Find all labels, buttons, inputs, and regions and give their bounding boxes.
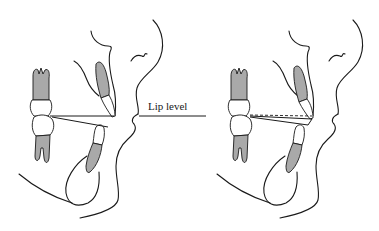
right-forehead-nose-contour [336, 20, 362, 114]
right-lower-incisor-root [286, 143, 302, 173]
left-upper-incisor-crown [101, 95, 115, 117]
left-panel [19, 20, 163, 218]
left-upper-incisor-root [96, 62, 109, 98]
lip-level-diagram: Lip level [0, 0, 379, 231]
left-upper-molar-root [33, 68, 49, 100]
right-incisor-connector [308, 119, 312, 125]
right-lower-molar-crown [230, 115, 251, 136]
left-lower-molar-root [35, 135, 50, 163]
left-nostril-curve [131, 54, 147, 61]
left-lower-incisor-root [86, 143, 102, 173]
lip-level-label: Lip level [148, 100, 187, 112]
right-upper-molar-root [231, 68, 247, 100]
left-lower-occlusal-line [52, 117, 108, 127]
left-palate-line [74, 61, 99, 96]
right-lower-incisor-crown [293, 125, 304, 145]
right-upper-molar-crown [228, 100, 249, 116]
right-lower-molar-root [233, 135, 248, 163]
right-dashed-occlusal-line [250, 115, 312, 116]
right-mandible-line [217, 174, 270, 203]
right-nostril-curve [329, 54, 345, 61]
left-mandible-line [19, 174, 72, 203]
left-lower-molar-crown [32, 115, 53, 136]
left-upper-molar-crown [30, 100, 51, 116]
right-upper-incisor-root [294, 66, 307, 102]
right-panel [217, 20, 363, 218]
left-lower-incisor-crown [93, 125, 104, 145]
